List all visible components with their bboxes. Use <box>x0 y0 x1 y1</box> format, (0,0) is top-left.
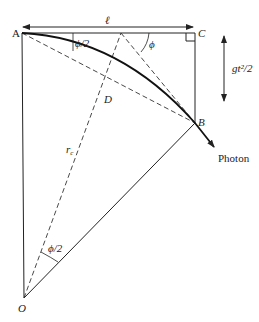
radius-line <box>24 33 121 298</box>
chord-AB <box>22 33 195 123</box>
angle-phi-label: ϕ <box>149 38 155 50</box>
angle-arc-phi <box>141 33 149 52</box>
angle-half-top-label: ϕ/2 <box>75 37 90 49</box>
radius-subscript: c <box>70 149 74 157</box>
photon-label: Photon <box>218 152 250 164</box>
tangent-line <box>121 33 195 123</box>
diagram-canvas: A C B D O ℓ gt²/2 ϕ/2 ϕ ϕ/2 rc Photon <box>0 0 259 322</box>
angle-half-bottom-label: ϕ/2 <box>48 242 63 254</box>
point-C-label: C <box>198 27 206 39</box>
radius-label: rc <box>66 143 74 157</box>
point-A-label: A <box>12 27 20 39</box>
length-label: ℓ <box>105 14 110 26</box>
photon-path <box>22 33 214 147</box>
line-OB <box>24 123 195 298</box>
point-B-label: B <box>198 116 205 128</box>
right-angle-marker <box>186 33 195 41</box>
drop-label: gt²/2 <box>232 62 253 74</box>
point-D-label: D <box>103 93 112 105</box>
point-O-label: O <box>18 302 26 314</box>
line-AO <box>22 33 24 298</box>
